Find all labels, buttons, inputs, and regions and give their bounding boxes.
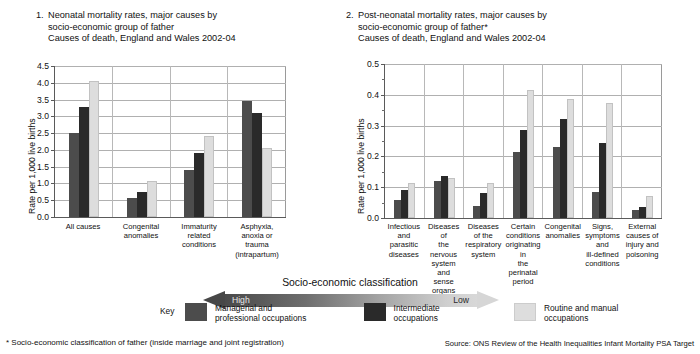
bar xyxy=(527,90,534,218)
bar xyxy=(441,176,448,218)
bar xyxy=(639,207,646,218)
bar xyxy=(567,99,574,218)
bar xyxy=(592,192,599,218)
x-axis-label-line: Infectious xyxy=(385,222,423,231)
y-axis-tick xyxy=(381,218,385,219)
y-axis-tick-label: 0.5 xyxy=(367,59,379,69)
x-axis-label-line: Signs, xyxy=(584,222,622,231)
bar xyxy=(599,143,606,218)
y-axis-tick-label: 2.5 xyxy=(37,128,49,138)
chart-2-plot-area: 0.00.10.20.30.40.5 xyxy=(384,64,662,219)
chart-1-x-axis-labels: All causesCongenitalanomaliesImmaturityr… xyxy=(54,222,286,259)
x-axis-label-line: Congenital xyxy=(544,222,582,231)
legend-label-line: occupations xyxy=(394,313,440,323)
chart-1-y-axis-title: Rate per 1,000 live births xyxy=(27,118,37,214)
chart-1-number: 1. xyxy=(36,10,44,22)
bar xyxy=(394,200,401,218)
x-axis-label-line: anoxia or trauma xyxy=(229,231,285,249)
bar xyxy=(79,107,89,217)
bar xyxy=(89,81,99,217)
x-axis-label-line: (intrapartum) xyxy=(229,250,285,259)
chart-2-title-line-1: Post-neonatal mortality rates, major cau… xyxy=(358,10,678,22)
chart-1-bars xyxy=(55,66,286,217)
y-axis-tick-label: 1.0 xyxy=(37,178,49,188)
x-axis-label-line: and parasitic xyxy=(385,231,423,249)
bar xyxy=(513,152,520,218)
legend-label: Intermediateoccupations xyxy=(394,303,440,323)
x-axis-label-line: Immaturity xyxy=(171,222,227,231)
chart-2-y-axis-title: Rate per 1,000 live births xyxy=(356,118,366,214)
key-label: Key xyxy=(160,306,174,316)
y-axis-tick-label: 0.0 xyxy=(37,212,49,222)
footnote: * Socio-economic classification of fathe… xyxy=(6,338,284,347)
x-axis-label-line: conditions xyxy=(504,231,542,240)
bar xyxy=(448,178,455,218)
x-axis-label-line: of the xyxy=(464,231,502,240)
y-axis-tick-label: 4.5 xyxy=(37,61,49,71)
y-axis-tick-label: 0.3 xyxy=(367,121,379,131)
legend-label: Routine and manualoccupations xyxy=(544,303,618,323)
x-axis-label-line: anomalies xyxy=(544,231,582,240)
bar xyxy=(194,153,204,217)
y-axis-tick-label: 0.1 xyxy=(367,182,379,192)
legend-swatch xyxy=(185,303,207,321)
chart-1-title: 1. Neonatal mortality rates, major cause… xyxy=(48,10,328,45)
y-axis-tick-label: 3.5 xyxy=(37,95,49,105)
chart-1-title-line-1: Neonatal mortality rates, major causes b… xyxy=(48,10,328,22)
bar-group xyxy=(228,66,286,217)
y-axis-tick-label: 1.5 xyxy=(37,162,49,172)
x-axis-category-label: All causes xyxy=(54,222,112,259)
y-axis-tick xyxy=(51,217,55,218)
bar xyxy=(632,210,639,218)
x-axis-label-line: system xyxy=(464,250,502,259)
x-axis-label-line: related xyxy=(171,231,227,240)
bar xyxy=(434,181,441,218)
y-axis-tick-label: 0.0 xyxy=(367,213,379,223)
bar-group xyxy=(543,64,583,218)
bar xyxy=(606,103,613,219)
chart-2-title-line-2: socio-economic group of father* xyxy=(358,22,678,34)
bar xyxy=(487,183,494,218)
x-axis-label-line: anomalies xyxy=(113,231,169,240)
legend-swatch xyxy=(514,303,536,321)
x-axis-label-line: Congenital xyxy=(113,222,169,231)
bar xyxy=(69,133,79,217)
legend-item: Routine and manualoccupations xyxy=(514,303,655,323)
x-axis-label-line: the perinatal xyxy=(504,259,542,277)
bar xyxy=(480,193,487,218)
legend-swatch xyxy=(364,303,386,321)
bar-group xyxy=(55,66,113,217)
legend-item: Intermediateoccupations xyxy=(364,303,514,323)
bar xyxy=(137,192,147,217)
x-axis-label-line: and xyxy=(584,240,622,249)
legend-label-line: Managerial and xyxy=(215,303,306,313)
x-axis-label-line: system and xyxy=(425,259,463,277)
x-axis-category-label: Congenitalanomalies xyxy=(112,222,170,259)
bar xyxy=(127,198,137,217)
x-axis-label-line: conditions xyxy=(171,240,227,249)
socio-economic-classification-title: Socio-economic classification xyxy=(0,277,700,288)
x-axis-label-line: ill-defined xyxy=(584,250,622,259)
chart-2-bars xyxy=(385,64,662,218)
bar xyxy=(408,183,415,218)
chart-legend: Managerial andprofessional occupationsIn… xyxy=(185,303,655,323)
source-note: Source: ONS Review of the Health Inequal… xyxy=(445,339,694,348)
x-axis-label-line: diseases xyxy=(385,250,423,259)
bar-group xyxy=(464,64,504,218)
x-axis-label-line: poisoning xyxy=(623,250,661,259)
x-axis-label-line: causes of xyxy=(623,231,661,240)
x-axis-label-line: Certain xyxy=(504,222,542,231)
bar xyxy=(262,148,272,217)
bar xyxy=(553,147,560,218)
bar xyxy=(184,170,194,217)
x-axis-label-line: the nervous xyxy=(425,240,463,258)
y-axis-tick-label: 4.0 xyxy=(37,78,49,88)
x-axis-label-line: Asphyxia, xyxy=(229,222,285,231)
bar xyxy=(560,119,567,218)
bar xyxy=(520,130,527,218)
chart-1-axes: 0.00.51.01.52.02.53.03.54.04.5 xyxy=(54,66,286,218)
x-axis-label-line: conditions xyxy=(584,259,622,268)
chart-2-title: 2. Post-neonatal mortality rates, major … xyxy=(358,10,678,45)
x-axis-label-line: respiratory xyxy=(464,240,502,249)
x-axis-category-label: Asphyxia,anoxia or trauma(intrapartum) xyxy=(228,222,286,259)
